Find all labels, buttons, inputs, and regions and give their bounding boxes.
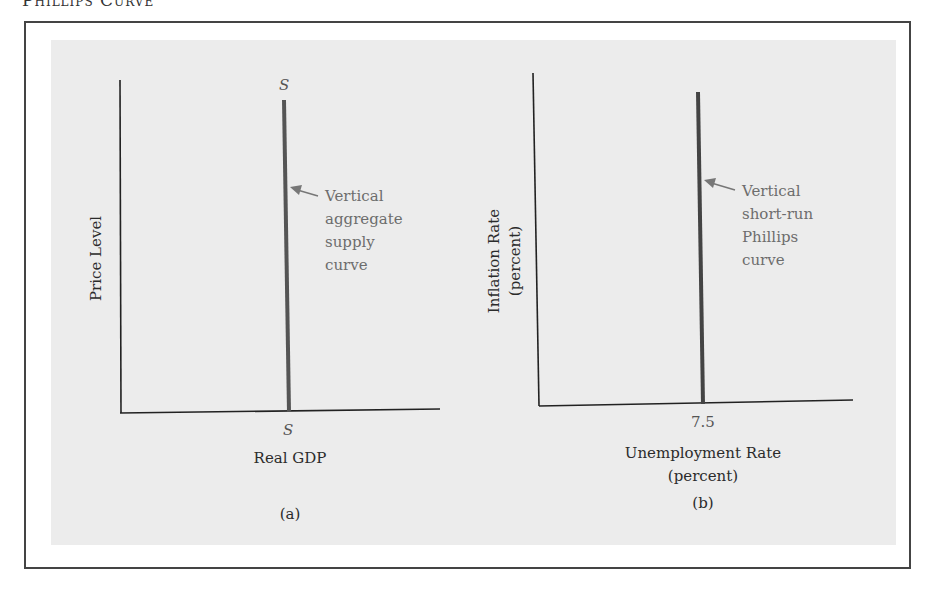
panel-a-caption: (a) — [270, 505, 310, 523]
panel-a-curve-label-bottom: S — [283, 421, 293, 439]
panel-b-arrow-head — [704, 178, 716, 188]
panel-b-annotation: Vertical short-run Phillips curve — [742, 180, 813, 272]
panel-b-x-axis — [539, 400, 853, 406]
panel-a-annotation: Vertical aggregate supply curve — [325, 185, 403, 277]
panel-b-caption: (b) — [683, 494, 723, 512]
panel-a-x-label: Real GDP — [240, 449, 340, 467]
panel-b-y-label: Inflation Rate (percent) — [484, 201, 526, 321]
panel-a-curve-label-top: S — [279, 76, 289, 94]
panel-a-y-axis — [120, 80, 121, 413]
panel-a-supply-curve — [284, 100, 289, 412]
chart-lines — [0, 0, 939, 589]
panel-b-phillips-curve — [698, 92, 703, 404]
panel-b-x-tick: 7.5 — [683, 413, 723, 431]
panel-a-x-axis — [120, 409, 440, 413]
panel-a-arrow-head — [290, 185, 302, 195]
panel-b-y-axis — [533, 73, 539, 406]
panel-a-y-label: Price Level — [87, 221, 105, 301]
panel-b-x-label: Unemployment Rate (percent) — [613, 442, 793, 488]
